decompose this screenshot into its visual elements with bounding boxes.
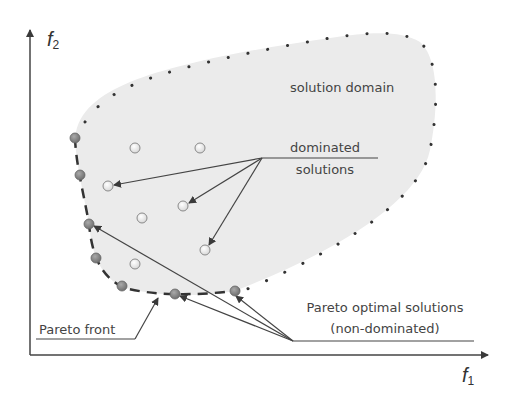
pareto-point — [230, 286, 240, 296]
dominated-point — [103, 181, 113, 191]
pareto-diagram — [0, 0, 521, 402]
pareto-point — [75, 170, 85, 180]
dominated-point — [137, 213, 147, 223]
pareto-point — [70, 133, 80, 143]
arrow-to-pareto-front — [135, 298, 158, 339]
pareto-point — [170, 289, 180, 299]
pareto-point — [84, 219, 94, 229]
dominated-point — [178, 201, 188, 211]
y-axis-label-subscript: 2 — [53, 38, 60, 52]
y-axis-label: f2 — [47, 28, 59, 52]
arrow-to-pareto-3 — [236, 296, 293, 341]
x-axis-label-subscript: 1 — [468, 374, 475, 388]
solution-domain-region — [75, 33, 436, 295]
dominated-point — [200, 245, 210, 255]
pareto-point — [117, 281, 127, 291]
dominated-point — [130, 143, 140, 153]
pareto-optimal-label-line1: Pareto optimal solutions — [295, 300, 475, 316]
arrow-to-pareto-2 — [180, 296, 293, 341]
pareto-optimal-label-line2: (non-dominated) — [295, 321, 475, 337]
dominated-label-line2: solutions — [280, 162, 370, 178]
dominated-point — [195, 143, 205, 153]
pareto-front-label: Pareto front — [39, 322, 115, 338]
x-axis-label: f1 — [462, 364, 474, 388]
solution-domain-label: solution domain — [290, 80, 394, 96]
dominated-point — [130, 259, 140, 269]
pareto-point — [91, 253, 101, 263]
dominated-label-line1: dominated — [280, 140, 370, 156]
